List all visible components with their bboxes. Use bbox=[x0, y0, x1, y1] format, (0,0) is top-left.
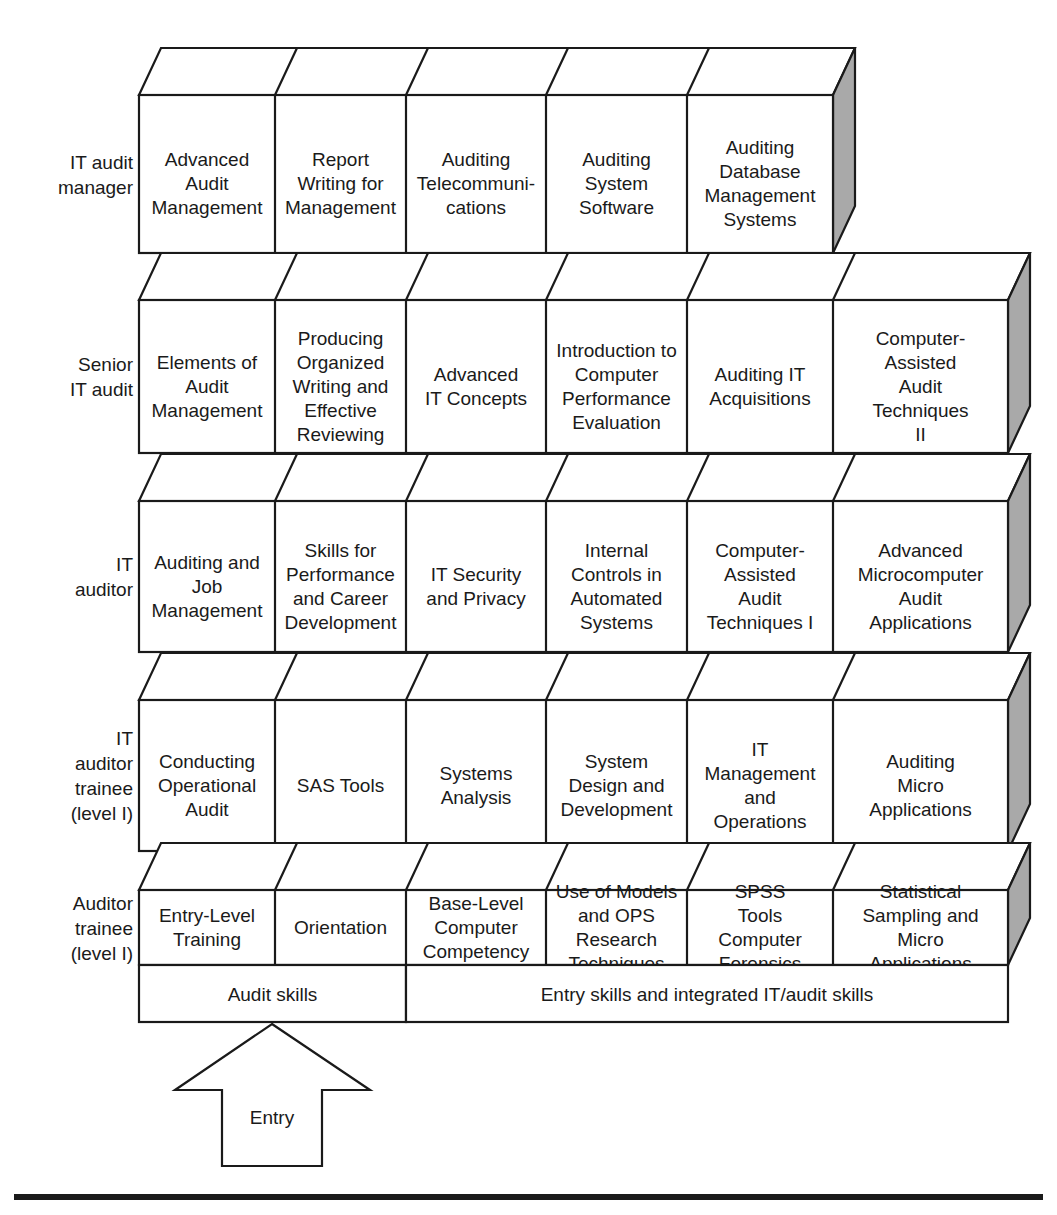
course-box-label-line: IT Security bbox=[431, 564, 522, 585]
course-box-label-line: Applications bbox=[869, 799, 971, 820]
tier-label-line: trainee bbox=[75, 918, 133, 939]
course-box-label-line: Audit bbox=[185, 799, 229, 820]
course-box-label-line: and bbox=[744, 787, 776, 808]
course-box-label-line: Automated bbox=[571, 588, 663, 609]
course-box-label-line: Techniques I bbox=[707, 612, 814, 633]
tier-label-line: (level I) bbox=[71, 803, 133, 824]
entry-arrow-label: Entry bbox=[250, 1107, 295, 1128]
course-box-label-line: Evaluation bbox=[572, 412, 661, 433]
course-box-label-line: Advanced bbox=[878, 540, 963, 561]
tier-label-line: IT audit bbox=[70, 152, 134, 173]
course-box[interactable]: AuditingSystemSoftware bbox=[579, 149, 654, 218]
tier-label: ITauditortrainee(level I) bbox=[71, 728, 134, 824]
course-box-label-line: Computer bbox=[575, 364, 659, 385]
course-box-label-line: Techniques bbox=[872, 400, 968, 421]
tier-label-line: trainee bbox=[75, 778, 133, 799]
course-box[interactable]: Base-LevelComputerCompetency bbox=[423, 893, 530, 962]
course-box-label-line: Acquisitions bbox=[709, 388, 810, 409]
course-box-label-line: IT Concepts bbox=[425, 388, 527, 409]
tier-top-face bbox=[139, 454, 1030, 501]
tier-label: IT auditmanager bbox=[58, 152, 134, 198]
course-box-label-line: System bbox=[585, 173, 648, 194]
course-box-label-line: Conducting bbox=[159, 751, 255, 772]
tier-label: Auditortrainee(level I) bbox=[71, 893, 134, 964]
footer-rule bbox=[14, 1194, 1043, 1200]
course-box-label-line: Management bbox=[705, 185, 817, 206]
course-box-label-line: Effective bbox=[304, 400, 377, 421]
course-box-label-line: Performance bbox=[562, 388, 671, 409]
course-box-label-line: Audit bbox=[185, 173, 229, 194]
course-box-label-line: IT bbox=[752, 739, 769, 760]
course-box-label-line: II bbox=[915, 424, 926, 445]
tier-label-line: manager bbox=[58, 177, 134, 198]
course-box-label-line: Producing bbox=[298, 328, 384, 349]
course-box-label-line: Auditing bbox=[886, 751, 955, 772]
course-box-label-line: Management bbox=[152, 600, 264, 621]
course-box-label-line: Advanced bbox=[434, 364, 519, 385]
course-box-label-line: Report bbox=[312, 149, 370, 170]
course-box-label-line: Skills for bbox=[305, 540, 377, 561]
course-box-label-line: Database bbox=[719, 161, 800, 182]
course-box-label-line: Sampling and bbox=[862, 905, 978, 926]
course-box-label-line: Development bbox=[285, 612, 398, 633]
course-box-label-line: Auditing and bbox=[154, 552, 260, 573]
course-box-label-line: Assisted bbox=[724, 564, 796, 585]
course-box-label-line: Computer bbox=[718, 929, 802, 950]
course-box-label-line: Auditing bbox=[726, 137, 795, 158]
tier-row: ConductingOperationalAuditSAS ToolsSyste… bbox=[139, 653, 1030, 851]
course-box-label-line: Use of Models bbox=[556, 881, 677, 902]
course-box-label-line: and Privacy bbox=[426, 588, 526, 609]
tier-row: Entry-LevelTrainingOrientationBase-Level… bbox=[139, 843, 1030, 974]
course-box-label-line: Audit bbox=[738, 588, 782, 609]
course-box-label-line: SPSS bbox=[735, 881, 786, 902]
course-box-label-line: Organized bbox=[297, 352, 385, 373]
course-box-label-line: Management bbox=[152, 400, 264, 421]
course-box-label-line: Computer bbox=[434, 917, 518, 938]
course-box-label-line: Design and bbox=[568, 775, 664, 796]
tier-label-line: IT bbox=[116, 728, 133, 749]
tier-label: SeniorIT audit bbox=[70, 354, 134, 400]
course-box-label-line: Auditing bbox=[442, 149, 511, 170]
course-box-label-line: Writing and bbox=[293, 376, 389, 397]
course-box-label-line: Systems bbox=[724, 209, 797, 230]
course-box-label-line: SAS Tools bbox=[297, 775, 384, 796]
course-box-label-line: Assisted bbox=[885, 352, 957, 373]
course-box-label-line: Orientation bbox=[294, 917, 387, 938]
tier-row: Auditing andJobManagementSkills forPerfo… bbox=[139, 454, 1030, 652]
skills-band-label: Entry skills and integrated IT/audit ski… bbox=[541, 984, 874, 1005]
course-box-label-line: Computer- bbox=[715, 540, 805, 561]
course-box-label-line: Statistical bbox=[880, 881, 961, 902]
course-box-label-line: Systems bbox=[440, 763, 513, 784]
course-box-label-line: Elements of bbox=[157, 352, 258, 373]
course-box[interactable]: ProducingOrganizedWriting andEffectiveRe… bbox=[293, 328, 389, 445]
course-box-label-line: Audit bbox=[185, 376, 229, 397]
entry-arrow-shape bbox=[175, 1024, 370, 1166]
tier-label-line: IT audit bbox=[70, 379, 134, 400]
course-box-label-line: Controls in bbox=[571, 564, 662, 585]
course-box-label-line: Auditing bbox=[582, 149, 651, 170]
course-box[interactable]: SAS Tools bbox=[297, 775, 384, 796]
course-box-label-line: Management bbox=[705, 763, 817, 784]
tier-label-line: Auditor bbox=[73, 893, 134, 914]
course-box-label-line: Performance bbox=[286, 564, 395, 585]
course-box-label-line: Tools bbox=[738, 905, 782, 926]
course-box-label-line: Writing for bbox=[297, 173, 384, 194]
course-box-label-line: Reviewing bbox=[297, 424, 385, 445]
course-box-label-line: Analysis bbox=[441, 787, 512, 808]
course-box-label-line: Audit bbox=[899, 588, 943, 609]
course-box-label-line: Applications bbox=[869, 612, 971, 633]
tier-top-face bbox=[139, 48, 855, 95]
tier-row: Elements ofAuditManagementProducingOrgan… bbox=[139, 253, 1030, 453]
course-box-label-line: Research bbox=[576, 929, 657, 950]
course-box-label-line: Software bbox=[579, 197, 654, 218]
course-box[interactable]: Orientation bbox=[294, 917, 387, 938]
course-box-label-line: Micro bbox=[897, 775, 943, 796]
tier-label: ITauditor bbox=[75, 554, 134, 600]
course-box-label-line: Micro bbox=[897, 929, 943, 950]
tier-label-line: auditor bbox=[75, 579, 134, 600]
course-box-label-line: Development bbox=[561, 799, 674, 820]
course-box-label-line: Advanced bbox=[165, 149, 250, 170]
entry-arrow: Entry bbox=[175, 1024, 370, 1166]
course-box-label-line: Management bbox=[285, 197, 397, 218]
course-box-label-line: Computer- bbox=[876, 328, 966, 349]
